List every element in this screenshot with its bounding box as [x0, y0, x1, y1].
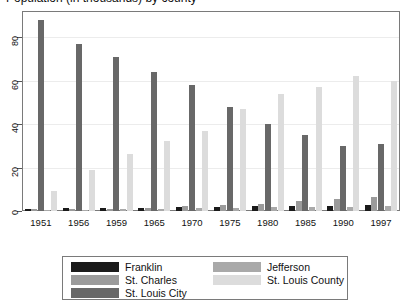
- legend-label: Jefferson: [267, 261, 310, 273]
- legend-swatch: [213, 275, 261, 285]
- bar: [220, 205, 226, 211]
- bar: [289, 206, 295, 211]
- x-tick-label: 1975: [219, 217, 240, 228]
- page-title: Population (in thousands) by county: [6, 0, 197, 5]
- bar: [258, 204, 264, 211]
- bar: [302, 135, 308, 211]
- bar: [89, 170, 95, 211]
- bar: [340, 146, 346, 211]
- bar: [316, 87, 322, 211]
- bar: [385, 206, 391, 211]
- chart-title-clipped: Population (in thousands) by county: [0, 0, 410, 9]
- x-tick-label: 1970: [182, 217, 203, 228]
- bar: [113, 57, 119, 211]
- x-tick-label: 1990: [333, 217, 354, 228]
- bar: [145, 208, 151, 211]
- bar: [233, 208, 239, 211]
- bar: [31, 209, 37, 211]
- x-tick-label: 1959: [106, 217, 127, 228]
- bars-layer: [22, 11, 400, 211]
- x-tick-label: 1965: [144, 217, 165, 228]
- bar: [82, 210, 88, 211]
- y-tick-label: 20: [10, 167, 20, 177]
- bar: [309, 207, 315, 211]
- bar: [158, 209, 164, 211]
- bar: [278, 94, 284, 211]
- bar: [265, 124, 271, 211]
- y-tick-label: 80: [10, 36, 20, 46]
- x-tick-label: 1980: [257, 217, 278, 228]
- legend-item: Jefferson: [213, 261, 310, 273]
- x-tick-label: 1997: [371, 217, 392, 228]
- bar: [100, 208, 106, 211]
- bar: [252, 206, 258, 211]
- bar: [25, 209, 31, 211]
- legend-label: Franklin: [125, 261, 162, 273]
- legend-item: Franklin: [71, 261, 162, 273]
- bar: [334, 199, 340, 211]
- bar: [365, 205, 371, 211]
- bar: [378, 144, 384, 211]
- bar: [44, 210, 50, 211]
- bar: [189, 85, 195, 211]
- y-tick-label: 40: [10, 123, 20, 133]
- bar: [182, 206, 188, 211]
- bar: [76, 44, 82, 211]
- bar-group: [214, 11, 246, 211]
- y-tick-label: 0: [10, 210, 20, 215]
- bar: [38, 20, 44, 211]
- legend-swatch: [71, 262, 119, 272]
- x-tick-label: 1985: [295, 217, 316, 228]
- bar: [63, 208, 69, 211]
- bar: [69, 209, 75, 211]
- y-axis: 020406080: [0, 11, 22, 212]
- bar-group: [25, 11, 57, 211]
- legend-swatch: [71, 288, 119, 298]
- x-tick-label: 1956: [68, 217, 89, 228]
- legend-label: St. Louis County: [267, 274, 344, 286]
- bar-group: [100, 11, 132, 211]
- legend-label: St. Louis City: [125, 287, 187, 299]
- bar-group: [365, 11, 397, 211]
- bar: [138, 208, 144, 211]
- bar: [227, 107, 233, 211]
- bar: [127, 154, 133, 211]
- bar-group: [138, 11, 170, 211]
- chart-legend: FranklinSt. CharlesSt. Louis CityJeffers…: [62, 256, 348, 300]
- bar-group: [63, 11, 95, 211]
- bar: [164, 141, 170, 211]
- bar-group: [289, 11, 321, 211]
- bar: [202, 131, 208, 211]
- x-axis: 1951195619591965197019751980198519901997: [22, 212, 400, 232]
- legend-swatch: [213, 262, 261, 272]
- bar: [107, 209, 113, 211]
- bar: [347, 207, 353, 211]
- bar: [214, 207, 220, 211]
- legend-label: St. Charles: [125, 274, 177, 286]
- legend-item: St. Louis City: [71, 287, 187, 299]
- bar: [296, 201, 302, 211]
- bar: [151, 72, 157, 211]
- legend-swatch: [71, 275, 119, 285]
- bar: [327, 206, 333, 211]
- bar: [271, 207, 277, 211]
- bar: [391, 81, 397, 211]
- legend-item: St. Louis County: [213, 274, 344, 286]
- bar: [240, 109, 246, 211]
- bar-group: [252, 11, 284, 211]
- legend-item: St. Charles: [71, 274, 177, 286]
- bar: [120, 209, 126, 211]
- bar: [353, 76, 359, 211]
- bar: [196, 208, 202, 211]
- bar-group: [327, 11, 359, 211]
- bar: [176, 207, 182, 211]
- bar: [371, 197, 377, 211]
- x-tick-label: 1951: [30, 217, 51, 228]
- bar: [51, 191, 57, 211]
- bar-group: [176, 11, 208, 211]
- y-tick-label: 60: [10, 80, 20, 90]
